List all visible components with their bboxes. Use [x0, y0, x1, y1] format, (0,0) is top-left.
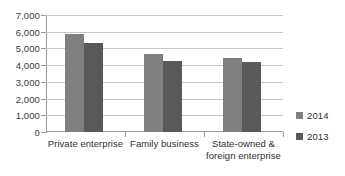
- legend-swatch-icon: [296, 133, 303, 140]
- bar-chart: 7,000 6,000 5,000 4,000 3,000 2,000 1,00…: [0, 0, 345, 176]
- category-label-line: State-owned &: [204, 138, 283, 150]
- y-tick-label: 2,000: [16, 93, 40, 104]
- y-tick-label: 5,000: [16, 43, 40, 54]
- plot-area: [46, 15, 283, 132]
- x-axis-category-separator: [204, 132, 205, 137]
- x-axis-category-labels: Private enterprise Family business State…: [46, 138, 283, 176]
- y-tick-label: 1,000: [16, 110, 40, 121]
- x-axis-category-separator: [283, 132, 284, 137]
- bar-private-enterprise-2014: [65, 34, 84, 132]
- y-tickmark: [41, 132, 46, 133]
- y-tick-label: 6,000: [16, 26, 40, 37]
- bars-layer: [46, 15, 283, 132]
- category-label-family-business: Family business: [125, 138, 204, 150]
- category-label-line: foreign enterprise: [204, 150, 283, 162]
- category-label-line: Family business: [125, 138, 204, 150]
- legend-swatch-icon: [296, 112, 303, 119]
- legend-item-2013[interactable]: 2013: [296, 128, 344, 144]
- chart-legend: 2014 2013: [296, 107, 344, 149]
- bar-state-owned-foreign-enterprise-2013: [242, 62, 261, 132]
- y-tick-label: 7,000: [16, 10, 40, 21]
- category-label-state-owned-foreign-enterprise: State-owned & foreign enterprise: [204, 138, 283, 161]
- bar-family-business-2013: [163, 61, 182, 132]
- y-tick-label: 4,000: [16, 60, 40, 71]
- bar-state-owned-foreign-enterprise-2014: [223, 58, 242, 132]
- y-axis-tick-labels: 7,000 6,000 5,000 4,000 3,000 2,000 1,00…: [0, 0, 44, 176]
- legend-label: 2014: [307, 110, 329, 121]
- y-tick-label: 3,000: [16, 76, 40, 87]
- legend-item-2014[interactable]: 2014: [296, 107, 344, 123]
- category-label-line: Private enterprise: [46, 138, 125, 150]
- bar-family-business-2014: [144, 54, 163, 132]
- x-axis-category-separator: [125, 132, 126, 137]
- category-label-private-enterprise: Private enterprise: [46, 138, 125, 150]
- y-tick-label: 0: [35, 127, 40, 138]
- bar-private-enterprise-2013: [84, 43, 103, 132]
- legend-label: 2013: [307, 131, 329, 142]
